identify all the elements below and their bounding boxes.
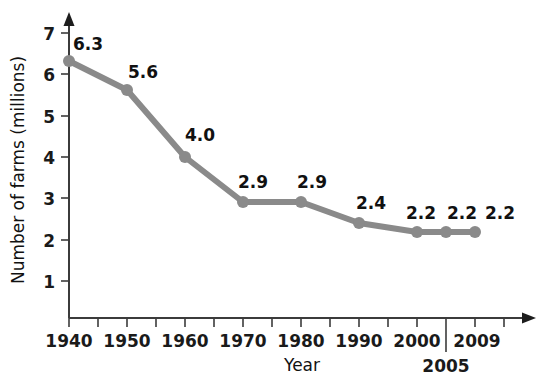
- data-point-1950: [121, 84, 133, 96]
- x-tick-label-1950: 1950: [103, 331, 150, 351]
- data-label-1980: 2.9: [297, 172, 327, 192]
- x-tick-label-1990: 1990: [335, 331, 382, 351]
- data-point-labels: 6.3 5.6 4.0 2.9 2.9 2.4 2.2 2.2 2.2: [73, 34, 515, 223]
- y-tick-label-1: 1: [43, 272, 55, 292]
- data-label-2009: 2.2: [485, 203, 515, 223]
- data-point-2009: [469, 226, 481, 238]
- y-tick-label-2: 2: [43, 231, 55, 251]
- x-tick-label-1940: 1940: [45, 331, 92, 351]
- data-point-1970: [237, 196, 249, 208]
- x-axis-tick-labels: 1940 1950 1960 1970 1980 1990 2000 2009 …: [45, 331, 500, 376]
- y-axis-tick-labels: 7 6 5 4 3 2 1: [43, 24, 55, 292]
- data-label-1950: 5.6: [128, 62, 158, 82]
- x-tick-label-2005: 2005: [422, 356, 469, 376]
- chart-container: 7 6 5 4 3 2 1: [0, 0, 543, 381]
- data-label-1990: 2.4: [356, 193, 386, 213]
- y-tick-label-4: 4: [43, 148, 55, 168]
- data-point-2000: [411, 226, 423, 238]
- data-point-1990: [353, 217, 365, 229]
- data-label-2005: 2.2: [447, 203, 477, 223]
- data-label-1970: 2.9: [238, 172, 268, 192]
- x-axis-title: Year: [283, 355, 320, 375]
- data-label-1960: 4.0: [185, 125, 215, 145]
- line-chart: 7 6 5 4 3 2 1: [0, 0, 543, 381]
- data-point-1940: [63, 55, 75, 67]
- x-axis-arrow-icon: [522, 313, 536, 324]
- y-axis-ticks: [61, 33, 69, 281]
- y-axis-arrow-icon: [64, 12, 75, 26]
- data-point-1960: [179, 151, 191, 163]
- data-label-2000: 2.2: [406, 203, 436, 223]
- data-label-1940: 6.3: [73, 34, 103, 54]
- y-tick-label-7: 7: [43, 24, 55, 44]
- y-tick-label-5: 5: [43, 107, 55, 127]
- x-tick-label-1960: 1960: [161, 331, 208, 351]
- data-point-1980: [295, 196, 307, 208]
- y-tick-label-3: 3: [43, 189, 55, 209]
- data-point-2005: [440, 226, 452, 238]
- x-tick-label-1970: 1970: [219, 331, 266, 351]
- x-tick-label-2009: 2009: [453, 331, 500, 351]
- x-tick-label-2000: 2000: [393, 331, 440, 351]
- y-axis-title: Number of farms (millions): [8, 56, 28, 284]
- y-tick-label-6: 6: [43, 65, 55, 85]
- x-tick-label-1980: 1980: [277, 331, 324, 351]
